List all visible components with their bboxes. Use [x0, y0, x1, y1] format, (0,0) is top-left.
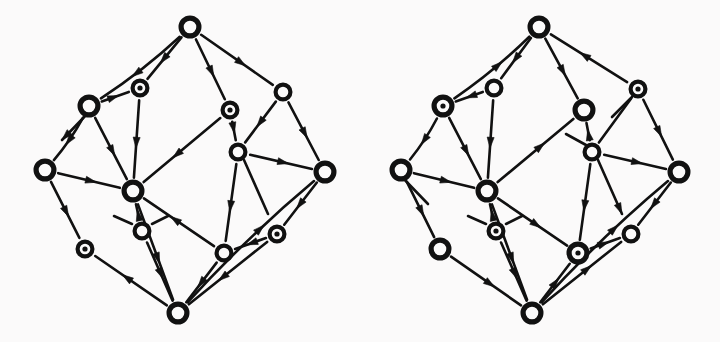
edge-inner-lower-to-bottom-arrowhead	[155, 267, 163, 278]
node-center-left-ring	[124, 182, 142, 200]
node-top-ring	[530, 18, 548, 36]
node-lower-left-dot-center-dot	[82, 246, 87, 251]
right-graph-node-center-left[interactable]	[478, 182, 496, 200]
right-graph-node-left-upper-dot[interactable]	[434, 97, 452, 115]
stub-center-right-down	[244, 160, 268, 214]
edge-upper-mid-dot-to-center-right-arrowhead	[229, 122, 236, 133]
stub-inner-lower-left	[468, 216, 486, 224]
edge-left-upper-dot-to-left-arrowhead	[421, 133, 430, 144]
left-graph-node-lower-right-dot[interactable]	[270, 227, 285, 242]
edge-inner-lower-dot-to-bottom-arrowhead	[509, 267, 517, 278]
node-right-ring	[670, 163, 688, 181]
stub-center-right-up	[566, 134, 586, 145]
left-graph-node-left-upper[interactable]	[80, 97, 98, 115]
node-upper-left-ring	[487, 81, 502, 96]
right-graph-node-lower-mid-dot[interactable]	[569, 244, 587, 262]
node-left-ring	[392, 161, 410, 179]
node-left-ring	[36, 161, 54, 179]
edge-upper-left-dot-to-left-upper-arrowhead	[107, 96, 119, 103]
right-graph-node-center-right[interactable]	[585, 145, 600, 160]
stub-inner-lower-right	[506, 216, 522, 224]
stub-center-right-down-arrowhead	[614, 203, 622, 214]
node-inner-lower-ring	[135, 224, 150, 239]
stub-inner-lower-right	[152, 216, 168, 224]
node-left-upper-dot-center-dot	[440, 103, 445, 108]
node-bottom-ring	[169, 304, 187, 322]
right-graph-node-upper-mid[interactable]	[575, 101, 593, 119]
left-graph-node-center-left[interactable]	[124, 182, 142, 200]
left-graph-node-upper-right[interactable]	[276, 85, 291, 100]
right-graph-node-inner-lower-dot[interactable]	[489, 224, 504, 239]
edge-upper-left-dot-to-center-left-arrowhead	[133, 137, 140, 148]
edge-upper-mid-to-center-right-arrowhead	[586, 130, 593, 141]
left-graph-node-upper-mid-dot[interactable]	[223, 103, 238, 118]
right-graph-node-lower-right[interactable]	[624, 227, 639, 242]
left-graph-stubs	[62, 112, 268, 224]
node-inner-lower-dot-center-dot	[493, 228, 498, 233]
left-graph-node-top[interactable]	[181, 18, 199, 36]
node-lower-right-ring	[624, 227, 639, 242]
right-graph-node-upper-left[interactable]	[487, 81, 502, 96]
right-graph-nodes	[392, 18, 688, 322]
node-upper-mid-ring	[575, 101, 593, 119]
right-graph-edges	[407, 34, 673, 305]
node-lower-mid-dot-center-dot	[575, 250, 580, 255]
right-graph-node-top[interactable]	[530, 18, 548, 36]
graph-canvas	[0, 0, 720, 342]
edge-left-to-lower-left-arrowhead	[416, 205, 424, 216]
right-graph-node-left[interactable]	[392, 161, 410, 179]
edge-upper-mid-dot-to-center-left	[144, 118, 221, 182]
edge-upper-left-to-left-upper-dot-arrowhead	[466, 91, 478, 98]
node-center-right-ring	[585, 145, 600, 160]
stub-inner-lower-left	[114, 216, 132, 224]
node-lower-left-ring	[431, 240, 449, 258]
left-graph-node-lower-left-dot[interactable]	[78, 242, 93, 257]
node-upper-right-ring	[276, 85, 291, 100]
node-right-ring	[316, 163, 334, 181]
left-graph-node-upper-left-dot[interactable]	[133, 81, 148, 96]
right-graph-node-right[interactable]	[670, 163, 688, 181]
left-graph-node-lower-mid[interactable]	[217, 246, 232, 261]
node-center-right-ring	[231, 145, 246, 160]
right-graph-node-bottom[interactable]	[523, 304, 541, 322]
node-left-upper-ring	[80, 97, 98, 115]
node-lower-mid-ring	[217, 246, 232, 261]
edge-upper-right-dot-to-center-right	[599, 98, 631, 142]
left-graph-node-bottom[interactable]	[169, 304, 187, 322]
edge-center-left-to-bottom	[138, 204, 173, 299]
edge-lower-mid-dot-to-lower-right-arrowhead	[597, 242, 609, 249]
edge-upper-right-dot-to-right-arrowhead	[654, 125, 662, 136]
right-graph-node-upper-right-dot[interactable]	[631, 82, 646, 97]
edge-left-to-center-left-arrowhead	[85, 176, 97, 183]
stub-upper-right-dot-down	[612, 97, 632, 117]
edge-upper-right-to-right-arrowhead	[299, 127, 307, 138]
edge-upper-mid-to-center-left	[498, 119, 574, 182]
stubs-layer	[62, 97, 632, 224]
node-upper-right-dot-center-dot	[635, 86, 640, 91]
node-top-ring	[181, 18, 199, 36]
edge-center-left-to-bottom	[492, 204, 527, 299]
left-graph-node-inner-lower[interactable]	[135, 224, 150, 239]
edge-top-to-upper-mid-arrowhead	[557, 64, 565, 75]
edge-left-to-center-left-arrowhead	[440, 176, 452, 183]
node-upper-mid-dot-center-dot	[227, 107, 232, 112]
right-graph-node-lower-left[interactable]	[431, 240, 449, 258]
node-lower-right-dot-center-dot	[274, 231, 279, 236]
edge-left-to-lower-left-dot-arrowhead	[61, 205, 69, 216]
left-graph-node-left[interactable]	[36, 161, 54, 179]
left-graph-node-right[interactable]	[316, 163, 334, 181]
edge-left-upper-dot-to-center-left-arrowhead	[461, 144, 469, 155]
edge-center-right-to-right-arrowhead	[277, 158, 289, 165]
left-graph-node-center-right[interactable]	[231, 145, 246, 160]
edges-layer	[51, 34, 673, 305]
edge-left-upper-to-center-left-arrowhead	[107, 144, 115, 155]
left-graph-nodes	[36, 18, 334, 322]
node-center-left-ring	[478, 182, 496, 200]
right-graph-stubs	[401, 97, 632, 224]
left-graph-edges	[51, 35, 319, 306]
node-upper-left-dot-center-dot	[137, 85, 142, 90]
figure-root	[0, 0, 720, 342]
edge-top-to-upper-mid-dot-arrowhead	[206, 65, 214, 76]
node-bottom-ring	[523, 304, 541, 322]
edge-center-right-to-right-arrowhead	[631, 158, 643, 165]
